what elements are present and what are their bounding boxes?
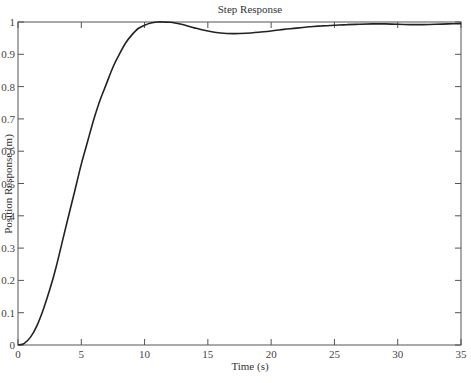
step-response-line (18, 22, 461, 345)
x-tick-label: 5 (79, 348, 85, 360)
y-tick-label: 0.3 (1, 242, 15, 254)
y-tick-label: 1 (10, 16, 16, 28)
x-tick-label: 25 (329, 348, 341, 360)
chart-title: Step Response (218, 3, 283, 15)
x-axis-ticks: 05101520253035 (15, 22, 467, 360)
y-tick-label: 0.2 (1, 274, 15, 286)
y-axis-ticks: 00.10.20.30.40.50.60.70.80.91 (1, 16, 461, 351)
y-tick-label: 0.7 (1, 113, 15, 125)
step-response-chart: Step Response 05101520253035 00.10.20.30… (0, 0, 471, 383)
x-tick-label: 15 (202, 348, 214, 360)
y-tick-label: 0.8 (1, 81, 15, 93)
x-tick-label: 20 (266, 348, 278, 360)
x-tick-label: 30 (392, 348, 404, 360)
x-tick-label: 35 (456, 348, 468, 360)
y-axis-label: Position Response (m) (2, 134, 15, 234)
y-tick-label: 0.1 (1, 307, 15, 319)
x-tick-label: 10 (139, 348, 151, 360)
x-tick-label: 0 (15, 348, 21, 360)
y-tick-label: 0.9 (1, 48, 15, 60)
y-tick-label: 0 (10, 339, 16, 351)
x-axis-label: Time (s) (231, 360, 269, 373)
plot-frame (18, 22, 461, 345)
